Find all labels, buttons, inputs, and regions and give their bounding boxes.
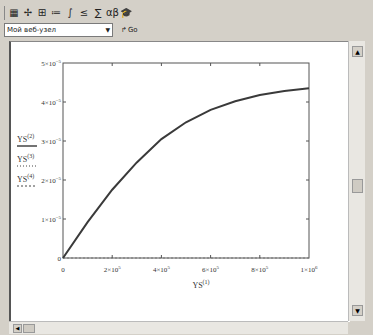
y-tick-label: 2×10−5 <box>41 176 61 185</box>
vertical-scrollbar[interactable]: ▲ ▼ <box>348 41 365 321</box>
scroll-up-icon[interactable]: ▲ <box>352 46 363 57</box>
y-tick-label: 5×10−5 <box>41 59 61 68</box>
x-tick-label: 0 <box>61 266 65 274</box>
boolean-icon[interactable]: ≤ <box>78 7 90 19</box>
y-tick-label: 3×10−5 <box>41 137 61 146</box>
series-line-ys2 <box>63 88 309 258</box>
horizontal-scrollbar[interactable]: ◀ <box>9 321 348 334</box>
dropdown-value: Мой веб-узел <box>7 26 56 34</box>
programming-icon[interactable]: ∑ <box>92 7 104 19</box>
address-bar: Мой веб-узел ▼ ↱ Go <box>4 23 154 37</box>
y-axis-label-entry: YS(3) <box>17 153 34 164</box>
horizontal-scroll-thumb[interactable] <box>23 324 35 333</box>
y-tick-label: 4×10−5 <box>41 98 61 107</box>
go-button[interactable]: ↱ Go <box>121 26 138 34</box>
go-arrow-icon: ↱ <box>121 26 127 34</box>
chevron-down-icon: ▼ <box>105 24 110 36</box>
x-tick-label: 4×105 <box>153 265 170 274</box>
calculus-icon[interactable]: ∫ <box>64 7 76 19</box>
y-axis-label-entry: YS(2) <box>17 133 34 144</box>
x-tick-label: 1×106 <box>301 265 318 274</box>
math-toolbar: ▦✢⊞≔∫≤∑αβ🎓 <box>4 6 136 20</box>
evaluation-icon[interactable]: ≔ <box>50 7 62 19</box>
xy-plot[interactable]: 02×1054×1056×1058×1051×10601×10−52×10−53… <box>11 42 350 322</box>
go-label: Go <box>128 26 138 34</box>
greek-icon[interactable]: αβ <box>106 7 118 19</box>
graph-icon[interactable]: ✢ <box>22 7 34 19</box>
y-axis-label-entry: YS(4) <box>17 173 34 184</box>
symbolic-icon[interactable]: 🎓 <box>120 7 132 19</box>
x-tick-label: 8×105 <box>251 265 268 274</box>
calculator-icon[interactable]: ▦ <box>8 7 20 19</box>
y-tick-label: 0 <box>58 255 62 263</box>
scroll-down-icon[interactable]: ▼ <box>352 305 363 316</box>
web-node-dropdown[interactable]: Мой веб-узел ▼ <box>4 23 113 37</box>
matrix-icon[interactable]: ⊞ <box>36 7 48 19</box>
worksheet[interactable]: 02×1054×1056×1058×1051×10601×10−52×10−53… <box>9 41 350 322</box>
y-tick-label: 1×10−5 <box>41 215 61 224</box>
x-axis-label: YS(1) <box>192 279 209 290</box>
vertical-scroll-thumb[interactable] <box>352 179 363 193</box>
scroll-left-icon[interactable]: ◀ <box>13 324 22 333</box>
x-tick-label: 2×105 <box>104 265 121 274</box>
x-tick-label: 6×105 <box>202 265 219 274</box>
